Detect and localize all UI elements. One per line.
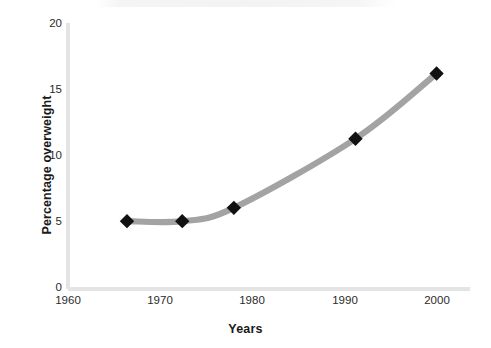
data-point-markers: 1966, 5.11972, 5.11978, 6.11991, 11.3200… bbox=[120, 66, 444, 228]
axis-lines bbox=[68, 23, 470, 289]
chart-screenshot: Percentage overweight Years 20 15 10 5 0… bbox=[0, 0, 491, 348]
data-point-marker: 1966, 5.1 bbox=[120, 214, 134, 228]
series-line-percentage-overweight bbox=[127, 74, 437, 223]
data-point-marker: 1972, 5.1 bbox=[175, 214, 189, 228]
plot-area: 1966, 5.11972, 5.11978, 6.11991, 11.3200… bbox=[0, 0, 491, 348]
data-series-line bbox=[127, 74, 437, 223]
